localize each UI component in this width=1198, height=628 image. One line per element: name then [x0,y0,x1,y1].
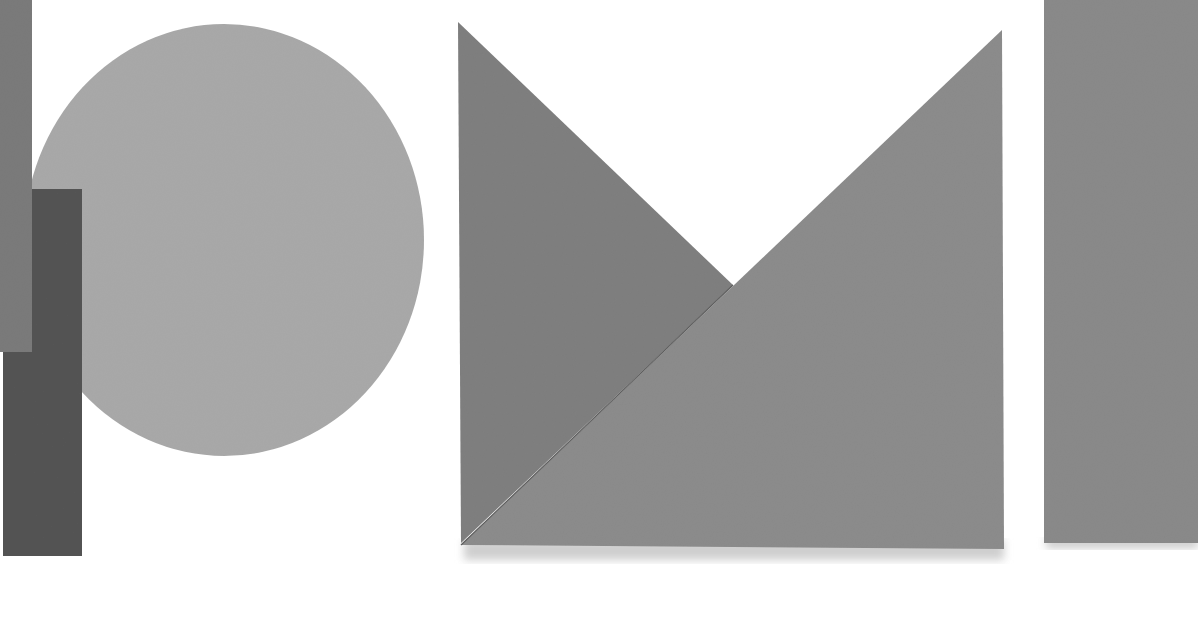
right-strip-cutout [1044,0,1198,543]
circle-cutout [24,24,424,456]
tall-gray-rectangle-overlap [0,189,32,352]
paper-cutout-scene [0,0,1198,628]
